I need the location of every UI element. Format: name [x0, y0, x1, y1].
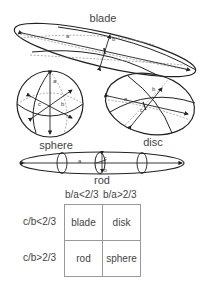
rod-label-b: b [104, 167, 107, 173]
blade-title: blade [90, 12, 117, 24]
table-row: rod sphere [65, 241, 141, 277]
disc-outline [100, 65, 201, 142]
cell-rod: rod [65, 241, 103, 277]
sphere-title: sphere [39, 139, 73, 151]
row-header-cb-less: c/b<2/3 [23, 216, 56, 227]
column-header-ba-less: b/a<2/3 [65, 189, 99, 200]
classification-table: blade disk rod sphere [64, 204, 141, 277]
disc-ridge-upper [128, 76, 172, 133]
cell-blade: blade [65, 205, 103, 241]
blade-ridge-upper [58, 27, 196, 70]
column-header-ba-greater: b/a>2/3 [103, 189, 137, 200]
sphere-shape: a b c [17, 71, 83, 137]
disc-shape: a b c [100, 65, 201, 142]
cell-sphere: sphere [103, 241, 141, 277]
table-row: blade disk [65, 205, 141, 241]
rod-shape: a c b [20, 152, 184, 174]
cell-disk: disk [103, 205, 141, 241]
rod-label-c: c [104, 155, 107, 161]
disc-dashed-1 [108, 100, 190, 120]
disc-label-b: b [152, 86, 156, 92]
disc-title: disc [143, 136, 163, 148]
blade-label-a: a [66, 33, 70, 39]
sphere-label-b: b [61, 101, 65, 107]
blade-label-b: b [112, 36, 116, 42]
particle-shapes-diagram: a b a b c a b c a c [0, 0, 204, 185]
disc-label-a: a [124, 96, 128, 102]
rod-title: rod [94, 174, 110, 186]
sphere-label-c: c [38, 101, 41, 107]
blade-axis-a [22, 33, 190, 70]
row-header-cb-greater: c/b>2/3 [23, 252, 56, 263]
blade-axis-c [104, 48, 105, 54]
